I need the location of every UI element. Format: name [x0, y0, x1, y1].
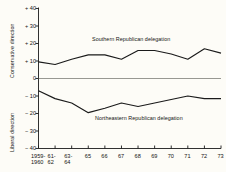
series-line [39, 91, 222, 113]
series-line [39, 49, 222, 65]
plot-area: Southern Republican delegationNortheaste… [0, 0, 226, 172]
data-series [39, 49, 222, 113]
chart-container: Conservative direction Liberal direction… [0, 0, 226, 172]
series-annotation-label: Northeastern Republican delegation [95, 115, 183, 121]
axes [36, 8, 222, 149]
series-annotation-label: Southern Republican delegation [92, 36, 170, 42]
